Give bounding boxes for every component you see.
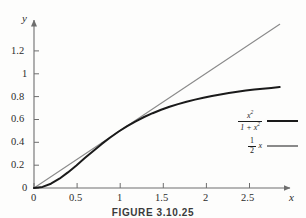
x-tick-label-0-5: 0.5 (69, 193, 82, 204)
legend-label-rational: x2 1 + x2 (200, 110, 262, 131)
x-tick-label-2: 2 (203, 193, 208, 204)
fraction-x2-over-1-plus-x2: x2 1 + x2 (238, 110, 262, 131)
y-tick-label-0: 0 (22, 183, 27, 194)
y-tick-label-0-2: 0.2 (11, 160, 24, 171)
y-tick-label-1-2: 1.2 (11, 46, 24, 57)
x-axis-ticks (34, 183, 250, 188)
x-tick-label-0: 0 (31, 193, 36, 204)
legend-swatch-half-x (267, 145, 298, 146)
y-tick-label-0-6: 0.6 (11, 114, 24, 125)
legend-entry-half-x: 1 2 x (200, 135, 300, 157)
y-axis-ticks (34, 51, 39, 188)
fraction-one-half: 1 2 (248, 137, 256, 155)
legend-entry-rational: x2 1 + x2 (200, 110, 300, 132)
fraction-numerator: x2 (245, 110, 255, 120)
x-tick-label-2-5: 2.5 (241, 193, 254, 204)
figure-caption: FIGURE 3.10.25 (0, 206, 306, 218)
figure-container: 0 0.2 0.4 0.6 0.8 1 1.2 0 0.5 1 1.5 2 2.… (0, 0, 306, 218)
y-tick-label-0-4: 0.4 (11, 137, 24, 148)
fraction-denominator: 1 + x2 (238, 122, 262, 132)
legend-swatch-rational (267, 120, 298, 122)
series-line-half-x (34, 24, 280, 188)
y-tick-label-1: 1 (22, 69, 27, 80)
legend: x2 1 + x2 1 2 x (200, 110, 300, 158)
y-axis-label: y (22, 13, 27, 24)
x-tick-label-1: 1 (117, 193, 122, 204)
x-axis-label: x (289, 192, 294, 203)
legend-label-half-x: 1 2 x (200, 137, 262, 155)
y-tick-label-0-8: 0.8 (11, 92, 24, 103)
legend-variable-x: x (258, 142, 262, 150)
x-tick-label-1-5: 1.5 (155, 193, 168, 204)
plot-area (0, 0, 306, 218)
